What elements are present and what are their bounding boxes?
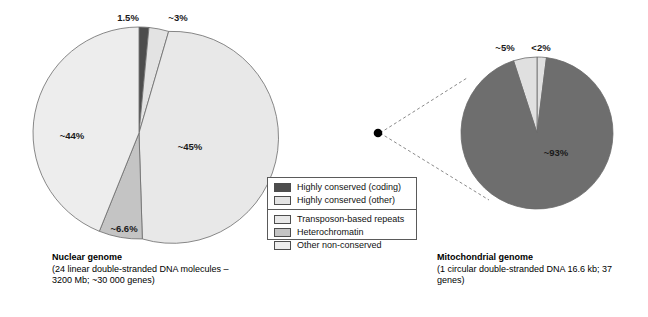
nuclear-label-heterochromatin: ~6.6% bbox=[110, 223, 138, 234]
caption-mito-title: Mitochondrial genome bbox=[437, 252, 617, 264]
legend-label-transposon-based-repeats: Transposon-based repeats bbox=[297, 214, 404, 224]
nuclear-genome-pie: 1.5% ~3% ~45% ~6.6% ~44% bbox=[33, 12, 278, 243]
callout-dot bbox=[374, 129, 383, 138]
legend-item-heterochromatin: Heterochromatin bbox=[274, 226, 416, 238]
legend-item-highly-conserved-coding: Highly conserved (coding) bbox=[274, 181, 416, 193]
legend-label-other-non-conserved: Other non-conserved bbox=[297, 240, 382, 250]
legend-label-highly-conserved-coding: Highly conserved (coding) bbox=[297, 182, 401, 192]
legend-label-heterochromatin: Heterochromatin bbox=[297, 227, 364, 237]
callout-line-top bbox=[380, 78, 467, 133]
legend-item-other-non-conserved: Other non-conserved bbox=[274, 239, 416, 251]
caption-mitochondrial-genome: Mitochondrial genome (1 circular double-… bbox=[437, 252, 617, 287]
legend-label-highly-conserved-other: Highly conserved (other) bbox=[297, 195, 395, 205]
nuclear-label-conserved-other: ~3% bbox=[168, 12, 188, 23]
legend-swatch-other-non-conserved bbox=[274, 241, 291, 250]
mito-label-conserved-other-small: <2% bbox=[531, 42, 551, 53]
mito-label-coding: ~93% bbox=[544, 147, 569, 158]
legend-group-conserved: Highly conserved (coding) Highly conserv… bbox=[268, 178, 416, 209]
legend-swatch-transposon-based-repeats bbox=[274, 215, 291, 224]
caption-nuclear-genome: Nuclear genome (24 linear double-strande… bbox=[52, 252, 242, 287]
legend-swatch-heterochromatin bbox=[274, 228, 291, 237]
caption-nuclear-detail: (24 linear double-stranded DNA molecules… bbox=[52, 264, 242, 287]
nuclear-label-transposon: ~45% bbox=[178, 141, 203, 152]
legend-swatch-highly-conserved-other bbox=[274, 196, 291, 205]
caption-nuclear-title: Nuclear genome bbox=[52, 252, 242, 264]
legend: Highly conserved (coding) Highly conserv… bbox=[267, 177, 417, 240]
legend-group-non-conserved: Transposon-based repeats Heterochromatin… bbox=[268, 209, 416, 254]
mitochondrial-genome-pie: ~5% <2% ~93% bbox=[461, 42, 613, 209]
pie-slice-transposon-based-repeats bbox=[139, 31, 279, 243]
mito-label-conserved-other: ~5% bbox=[495, 42, 515, 53]
legend-swatch-highly-conserved-coding bbox=[274, 183, 291, 192]
legend-item-transposon-based-repeats: Transposon-based repeats bbox=[274, 213, 416, 225]
caption-mito-detail: (1 circular double-stranded DNA 16.6 kb;… bbox=[437, 264, 617, 287]
nuclear-label-coding: 1.5% bbox=[117, 12, 139, 23]
legend-item-highly-conserved-other: Highly conserved (other) bbox=[274, 194, 416, 206]
figure-root: 1.5% ~3% ~45% ~6.6% ~44% ~5% <2% ~93% Hi… bbox=[0, 0, 648, 317]
nuclear-label-non-conserved: ~44% bbox=[60, 130, 85, 141]
